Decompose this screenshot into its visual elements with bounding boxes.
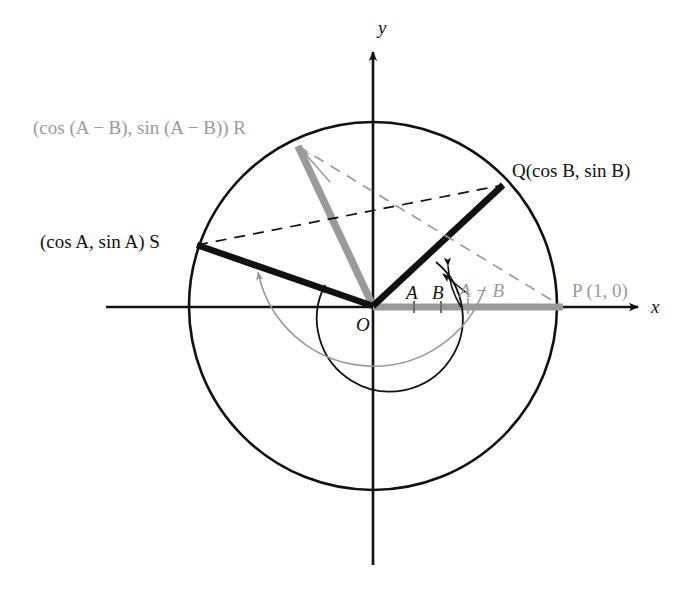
angle-label-a-minus-b: A − B xyxy=(459,281,504,300)
y-axis-label: y xyxy=(378,18,386,37)
point-label-p: P (1, 0) xyxy=(572,281,628,300)
segment-sq-dashed xyxy=(197,185,503,245)
unit-circle-figure: y x O P (1, 0) Q(cos B, sin B) (cos A, s… xyxy=(0,0,694,596)
x-axis-label: x xyxy=(651,297,659,316)
point-label-r: (cos (A − B), sin (A − B)) R xyxy=(33,118,246,137)
point-label-s: (cos A, sin A) S xyxy=(40,232,160,251)
angle-label-a: A xyxy=(406,283,418,302)
point-label-origin: O xyxy=(356,315,370,334)
angle-label-b: B xyxy=(432,283,444,302)
point-label-q: Q(cos B, sin B) xyxy=(512,161,630,180)
